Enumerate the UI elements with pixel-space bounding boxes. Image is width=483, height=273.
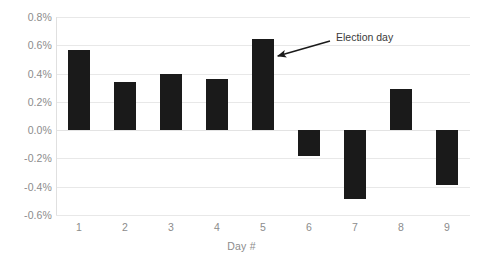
x-axis-tick-label: 1 xyxy=(76,221,82,233)
bar-chart: 0.8%0.6%0.4%0.2%0.0%-0.2%-0.4%-0.6% 1234… xyxy=(0,0,483,273)
x-axis-tick-label: 3 xyxy=(168,221,174,233)
bar xyxy=(436,130,458,185)
x-axis-tick-label: 7 xyxy=(352,221,358,233)
bar xyxy=(68,50,90,131)
annotation-label-election-day: Election day xyxy=(336,31,393,43)
x-axis-tick-label: 5 xyxy=(260,221,266,233)
y-axis-tick-label: 0.2% xyxy=(6,96,52,108)
bar xyxy=(390,89,412,130)
bar xyxy=(252,39,274,130)
gridline xyxy=(56,187,470,188)
y-axis-tick-label: -0.4% xyxy=(6,181,52,193)
y-axis-tick-label: 0.4% xyxy=(6,68,52,80)
y-axis-tick-labels: 0.8%0.6%0.4%0.2%0.0%-0.2%-0.4%-0.6% xyxy=(0,17,52,215)
x-axis-tick-labels: 123456789 xyxy=(56,221,470,239)
x-axis-tick-label: 8 xyxy=(398,221,404,233)
x-axis-tick-label: 4 xyxy=(214,221,220,233)
gridline xyxy=(56,215,470,216)
gridline xyxy=(56,17,470,18)
bar xyxy=(344,130,366,199)
bar xyxy=(298,130,320,156)
bar xyxy=(206,79,228,131)
plot-area xyxy=(56,17,470,215)
x-axis-title: Day # xyxy=(0,240,483,252)
y-axis-tick-label: 0.6% xyxy=(6,39,52,51)
bar xyxy=(160,74,182,130)
gridline xyxy=(56,130,470,131)
x-axis-tick-label: 2 xyxy=(122,221,128,233)
y-axis-tick-label: 0.8% xyxy=(6,11,52,23)
x-axis-tick-label: 9 xyxy=(444,221,450,233)
y-axis-tick-label: -0.2% xyxy=(6,152,52,164)
bar xyxy=(114,82,136,130)
gridline xyxy=(56,158,470,159)
y-axis-tick-label: 0.0% xyxy=(6,124,52,136)
y-axis-line xyxy=(56,17,57,215)
y-axis-tick-label: -0.6% xyxy=(6,209,52,221)
x-axis-tick-label: 6 xyxy=(306,221,312,233)
